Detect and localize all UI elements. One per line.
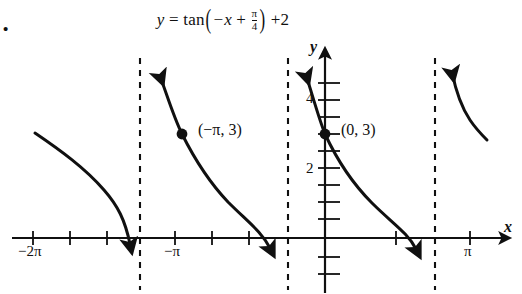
graph-canvas xyxy=(0,0,522,294)
y-tick-label-4: 4 xyxy=(306,90,314,107)
y-axis-ticks xyxy=(318,83,340,274)
tangent-function-figure: • y = tan(−x + π4) +2 xyxy=(0,0,522,294)
x-axis-label: x xyxy=(504,218,512,236)
point-label-neg-pi-3: (−π, 3) xyxy=(198,121,242,139)
point-marker-0-3 xyxy=(320,129,331,140)
x-tick-label-neg-pi: −π xyxy=(164,243,180,260)
x-tick-label-pi: π xyxy=(464,243,472,260)
asymptote-group xyxy=(140,58,435,290)
curve-branch-4 xyxy=(452,72,487,140)
curve-branch-2 xyxy=(160,76,270,248)
curve-branch-1 xyxy=(35,133,130,244)
y-axis-label: y xyxy=(310,38,317,56)
curve-branch-3 xyxy=(306,75,416,249)
y-tick-label-2: 2 xyxy=(306,160,314,177)
point-marker-neg-pi-3 xyxy=(177,129,188,140)
point-label-0-3: (0, 3) xyxy=(341,121,376,139)
x-tick-label-neg-2pi: −2π xyxy=(18,243,42,260)
